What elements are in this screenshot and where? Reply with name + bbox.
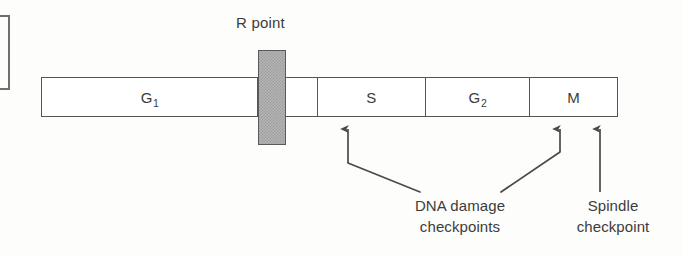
cycle-segment-label-m: M — [567, 89, 580, 106]
dna-damage-line-2: checkpoints — [377, 216, 543, 237]
dna-damage-checkpoints-label: DNA damage checkpoints — [377, 195, 543, 238]
clipped-left-box — [0, 15, 10, 90]
dna-damage-line-1: DNA damage — [377, 195, 543, 216]
r-point-block — [258, 50, 286, 145]
arrow-g2-phase — [501, 129, 560, 192]
cycle-segment-s: S — [318, 78, 426, 116]
arrow-s-phase — [348, 129, 420, 192]
cycle-segment-label-s: S — [366, 89, 376, 106]
cycle-segment-subscript-g2: 2 — [481, 97, 487, 109]
cell-cycle-bar: G1SG2M — [41, 77, 618, 117]
cycle-segment-subscript-g1: 1 — [153, 97, 159, 109]
r-point-label: R point — [236, 14, 285, 31]
spindle-line-2: checkpoint — [543, 216, 683, 237]
cycle-segment-g2: G2 — [426, 78, 531, 116]
spindle-checkpoint-label: Spindle checkpoint — [543, 195, 683, 238]
cell-cycle-figure: G1SG2M R point DNA damage checkpoints S — [0, 0, 683, 256]
cycle-segment-label-g1: G1 — [141, 89, 159, 106]
spindle-line-1: Spindle — [543, 195, 683, 216]
cycle-segment-label-g2: G2 — [469, 89, 487, 106]
cycle-segment-g1: G1 — [42, 78, 258, 116]
cycle-segment-m: M — [530, 78, 617, 116]
